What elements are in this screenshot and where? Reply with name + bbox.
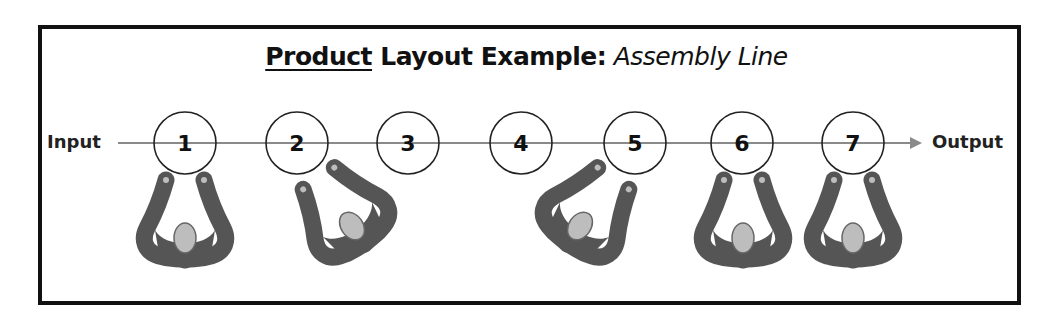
svg-text:6: 6 [734, 131, 749, 156]
svg-text:4: 4 [513, 131, 528, 156]
arrow-head-icon [910, 137, 922, 149]
assembly-line-diagram: 1 2 3 4 5 6 7 [0, 0, 1053, 315]
svg-text:3: 3 [400, 131, 415, 156]
svg-text:2: 2 [289, 131, 304, 156]
worker-icon [534, 153, 648, 268]
svg-text:1: 1 [177, 131, 192, 156]
svg-text:5: 5 [627, 131, 642, 156]
worker-icon [284, 153, 398, 268]
worker-icon [812, 177, 893, 260]
worker-icon [144, 177, 225, 260]
worker-icon [702, 177, 783, 260]
svg-text:7: 7 [845, 131, 860, 156]
